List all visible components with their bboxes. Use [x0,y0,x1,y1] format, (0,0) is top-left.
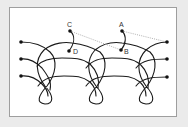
knot-diagram: C D A B [0,0,188,127]
endpoint-right-1 [165,40,169,44]
strand-bottom [21,76,167,96]
endpoint-left-3 [19,74,23,78]
point-a [120,29,124,33]
endpoint-left-2 [19,57,23,61]
point-b [119,48,123,52]
label-d: D [73,48,78,55]
point-c [68,29,72,33]
label-c: C [67,21,72,28]
label-a: A [119,21,124,28]
endpoint-right-3 [165,75,169,79]
endpoint-left-1 [19,40,23,44]
endpoint-right-2 [165,57,169,61]
strand-top [21,42,167,104]
dotted-link-a-end [122,31,167,42]
point-d [67,49,71,53]
label-b: B [124,48,129,55]
